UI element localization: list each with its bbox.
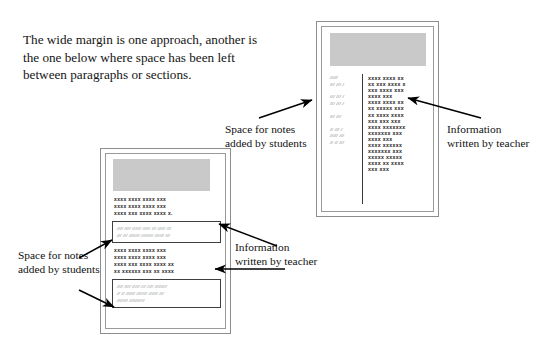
- caption-information-by-teacher-top: Information written by teacher: [447, 122, 533, 150]
- teacher-text-line: xxxx xxx xxxx xxxx xx: [114, 261, 221, 268]
- caption-information-by-teacher-bottom: Information written by teacher: [235, 240, 321, 268]
- margin-note-line: /// /// /: [330, 94, 360, 101]
- margin-note-line: /// ///: [330, 114, 360, 121]
- teacher-text-line: xxxx xxxx xxxx xxx: [114, 247, 221, 254]
- margin-note-line: /// /// /: [330, 101, 360, 108]
- diagram-canvas: The wide margin is one approach, another…: [0, 0, 539, 353]
- intro-paragraph: The wide margin is one approach, another…: [23, 31, 263, 84]
- teacher-text-line: xxxx xxxx xxxx xxx: [114, 196, 221, 203]
- caption-space-for-notes-bottom: Space for notes added by students: [18, 248, 102, 276]
- body-text-line: xxx xxx: [368, 166, 430, 172]
- arrow-notes-to-top-margin: [259, 100, 312, 118]
- student-note-line: // // ////// /////// ////// ///: [117, 290, 216, 297]
- margin-note-line: /////: [330, 75, 360, 82]
- student-note-line: //// //// ////// ///// /// ///// ///: [117, 225, 216, 232]
- margin-note-line: // /// /: [330, 127, 360, 134]
- student-note-box: //// //// ////// ///// /// ///// ////// …: [112, 221, 221, 243]
- teacher-text-line: xx xxxxxx xxx xx xxxx: [114, 268, 221, 275]
- page-content-stack: xxxx xxxx xxxx xxxxxxx xxxx xxxx xxxxxxx…: [112, 196, 221, 312]
- page-mockup-spaced-paragraphs: xxxx xxxx xxxx xxxxxxx xxxx xxxx xxxxxxx…: [100, 148, 231, 334]
- student-note-line: //// //// ///// /// //// ////////: [117, 283, 216, 290]
- student-note-box: //// //// ///// /// //// ////////// // /…: [112, 279, 221, 308]
- margin-notes-column: //////// /// //// /// //// /// //// ////…: [330, 75, 360, 146]
- teacher-text-line: xxxx xxx xxxx xxxx x.: [114, 210, 221, 217]
- teacher-paragraph: xxxx xxxx xxxx xxxxxxx xxxx xxxx xxxxxxx…: [114, 247, 221, 275]
- page-header-block: [113, 159, 210, 191]
- teacher-text-line: xxxx xxxx xxxx xxx: [114, 203, 221, 210]
- caption-space-for-notes-top: Space for notes added by students: [225, 122, 309, 150]
- margin-note-line: /// /// /: [330, 82, 360, 89]
- teacher-paragraph: xxxx xxxx xxxx xxxxxxx xxxx xxxx xxxxxxx…: [114, 196, 221, 217]
- margin-divider-line: [362, 74, 363, 204]
- page-mockup-wide-margin: //////// /// //// /// //// /// //// ////…: [316, 21, 439, 217]
- student-note-line: /////// //////////: [117, 297, 216, 304]
- page-header-block: [330, 33, 426, 66]
- margin-note-line: // // ///: [330, 140, 360, 147]
- body-text-column: xxxx xxxx xxxx xxx xxxx xxxx xxxx xxxxxx…: [368, 75, 430, 173]
- student-note-line: /// /// /////// //////// ////// ///: [117, 232, 216, 239]
- teacher-text-line: xxxx xxxx xxxx xxx: [114, 254, 221, 261]
- margin-note-line: ///// ///: [330, 133, 360, 140]
